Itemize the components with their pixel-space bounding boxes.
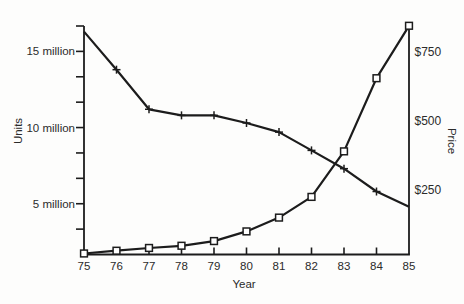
x-tick-label: 79 — [208, 260, 221, 272]
x-tick-label: 80 — [240, 260, 253, 272]
square-marker — [211, 238, 218, 245]
square-marker — [243, 228, 250, 235]
x-tick-label: 78 — [175, 260, 188, 272]
left-tick-label: 5 million — [33, 198, 75, 210]
square-marker — [146, 245, 153, 252]
right-tick-label: $500 — [415, 114, 442, 128]
chart-figure: 5 million10 million15 million75767778798… — [0, 0, 464, 304]
square-marker — [308, 194, 315, 201]
units-price-line-chart: 5 million10 million15 million75767778798… — [0, 0, 464, 304]
x-tick-label: 81 — [273, 260, 286, 272]
x-tick-label: 83 — [338, 260, 351, 272]
left-tick-label: 15 million — [26, 45, 75, 57]
right-tick-label: $250 — [415, 183, 442, 197]
x-tick-label: 75 — [78, 260, 91, 272]
square-marker — [81, 250, 88, 257]
price-series-line — [84, 26, 409, 254]
square-marker — [113, 247, 120, 254]
left-axis-title: Units — [12, 118, 24, 144]
x-tick-label: 84 — [370, 260, 383, 272]
right-tick-label: $750 — [415, 45, 442, 59]
x-tick-label: 82 — [305, 260, 318, 272]
right-axis-title: Price — [446, 128, 458, 154]
square-marker — [373, 75, 380, 82]
square-marker — [406, 22, 413, 29]
x-tick-label: 85 — [403, 260, 416, 272]
square-marker — [276, 214, 283, 221]
x-tick-label: 77 — [143, 260, 156, 272]
x-axis-title: Year — [232, 278, 255, 290]
square-marker — [341, 148, 348, 155]
x-tick-label: 76 — [110, 260, 123, 272]
left-tick-label: 10 million — [26, 122, 75, 134]
square-marker — [178, 242, 185, 249]
